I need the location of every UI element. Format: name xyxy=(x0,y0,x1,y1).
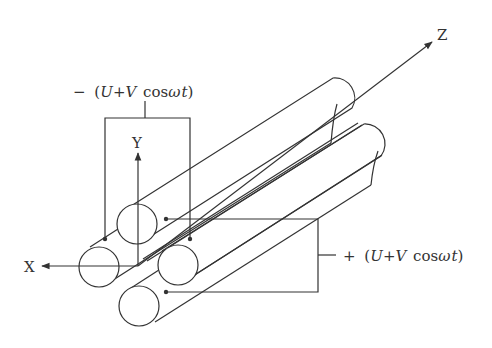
contact-dot-right xyxy=(188,237,192,241)
y-axis-label: Y xyxy=(131,134,143,152)
z-axis-arrow xyxy=(138,42,432,266)
rod-cross-section-top xyxy=(117,204,157,244)
contact-dot-left xyxy=(103,237,107,241)
quadrupole-diagram: X Y Z − (U+V cosωt) + (U+V cosωt) xyxy=(0,0,492,348)
rod-y-bottom xyxy=(131,151,382,322)
rod-cross-section-left xyxy=(79,247,119,287)
z-axis-label: Z xyxy=(437,26,447,44)
negative-voltage-label: − (U+V cosωt) xyxy=(73,83,193,101)
contact-dot-top xyxy=(164,217,168,221)
rod-x-left xyxy=(90,104,337,282)
x-axis-label: X xyxy=(24,258,35,276)
contact-dot-bottom xyxy=(164,290,168,294)
positive-voltage-label: + (U+V cosωt) xyxy=(343,247,463,265)
rod-cross-section-right xyxy=(158,245,198,285)
rod-cross-section-bottom xyxy=(119,286,159,326)
